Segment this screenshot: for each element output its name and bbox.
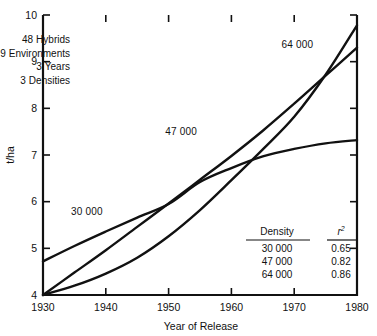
plot-frame [43, 15, 357, 295]
series-inline-labels: 30 00047 00064 000 [71, 39, 313, 217]
data-series-group [43, 25, 357, 295]
y-tick-label-8: 8 [31, 102, 37, 114]
x-tick-label-1960: 1960 [220, 301, 244, 313]
study-note-text-0: Hybrids [36, 34, 70, 45]
x-tick-label-1950: 1950 [157, 301, 181, 313]
x-tick-label-1940: 1940 [94, 301, 118, 313]
y-tick-label-10: 10 [25, 9, 37, 21]
stats-row-r2-0: 0.65 [331, 243, 351, 254]
stats-row-r2-2: 0.86 [331, 269, 351, 280]
series-label-30000: 30 000 [71, 206, 103, 217]
study-note-count-0: 48 [22, 34, 34, 45]
stats-table: Density r2 30 0000.6547 0000.8264 0000.8… [246, 225, 356, 280]
stats-table-header-density: Density [260, 226, 293, 237]
study-note-count-2: 3 [36, 61, 42, 72]
y-tick-label-5: 5 [31, 242, 37, 254]
y-tick-label-6: 6 [31, 195, 37, 207]
series-curve-47000 [43, 48, 357, 295]
stats-table-header-r2: r2 [337, 225, 344, 237]
x-tick-label-1970: 1970 [283, 301, 307, 313]
y-tick-label-4: 4 [31, 289, 37, 301]
study-note-line-2: 3Years [36, 61, 70, 72]
study-note-line-0: 48Hybrids [22, 34, 70, 45]
stats-table-header-r-superscript: 2 [340, 225, 345, 232]
study-note-line-1: 9Environments [0, 48, 70, 59]
study-note-line-3: 3Densities [20, 75, 70, 86]
series-label-47000: 47 000 [165, 126, 197, 137]
stats-row-density-2: 64 000 [262, 269, 293, 280]
series-label-64000: 64 000 [281, 39, 313, 50]
series-curve-30000 [43, 140, 357, 261]
yield-vs-year-line-chart: 45678910 193019401950196019701980 Year o… [0, 0, 377, 336]
x-axis-tick-labels: 193019401950196019701980 [31, 301, 369, 313]
x-axis-ticks-top [106, 15, 294, 22]
chart-container: 45678910 193019401950196019701980 Year o… [0, 0, 377, 336]
study-note-count-1: 9 [0, 48, 6, 59]
stats-table-rows: 30 0000.6547 0000.8264 0000.86 [262, 243, 351, 280]
stats-row-density-1: 47 000 [262, 256, 293, 267]
axis-frame-path [43, 15, 357, 295]
study-note-text-2: Years [45, 61, 70, 72]
y-axis-title: t/ha [4, 146, 16, 164]
x-tick-label-1980: 1980 [345, 301, 369, 313]
series-curve-64000 [43, 25, 357, 295]
y-tick-label-7: 7 [31, 149, 37, 161]
study-note-text-3: Densities [29, 75, 70, 86]
x-tick-label-1930: 1930 [31, 301, 55, 313]
study-note-text-1: Environments [9, 48, 70, 59]
study-note-count-3: 3 [20, 75, 26, 86]
stats-row-density-0: 30 000 [262, 243, 293, 254]
stats-row-r2-1: 0.82 [331, 256, 351, 267]
x-axis-title: Year of Release [164, 320, 238, 332]
